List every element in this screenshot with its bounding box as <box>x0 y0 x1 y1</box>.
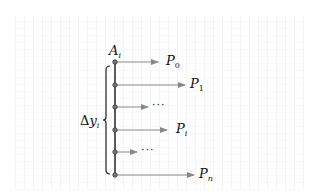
node-label-a-i: Ai <box>109 44 121 60</box>
node-point-3 <box>113 128 117 132</box>
delta-y-label: Δyi <box>80 114 99 130</box>
node-point-5 <box>113 173 117 177</box>
node-point-0 <box>113 60 117 64</box>
diagram-svg <box>0 0 320 196</box>
point-label-p1: P1 <box>190 77 204 93</box>
curly-brace <box>103 66 110 174</box>
point-label-p0: P0 <box>166 54 180 70</box>
diagram-canvas: Ai Δyi P0P1···Pi···Pn <box>0 0 320 196</box>
point-label-pn: Pn <box>199 167 213 183</box>
node-point-2 <box>113 105 117 109</box>
node-point-4 <box>113 150 117 154</box>
node-point-1 <box>113 83 117 87</box>
point-label-pi: Pi <box>176 122 187 138</box>
ellipsis-label-2: ··· <box>152 100 166 111</box>
ellipsis-label-4: ··· <box>141 145 155 156</box>
